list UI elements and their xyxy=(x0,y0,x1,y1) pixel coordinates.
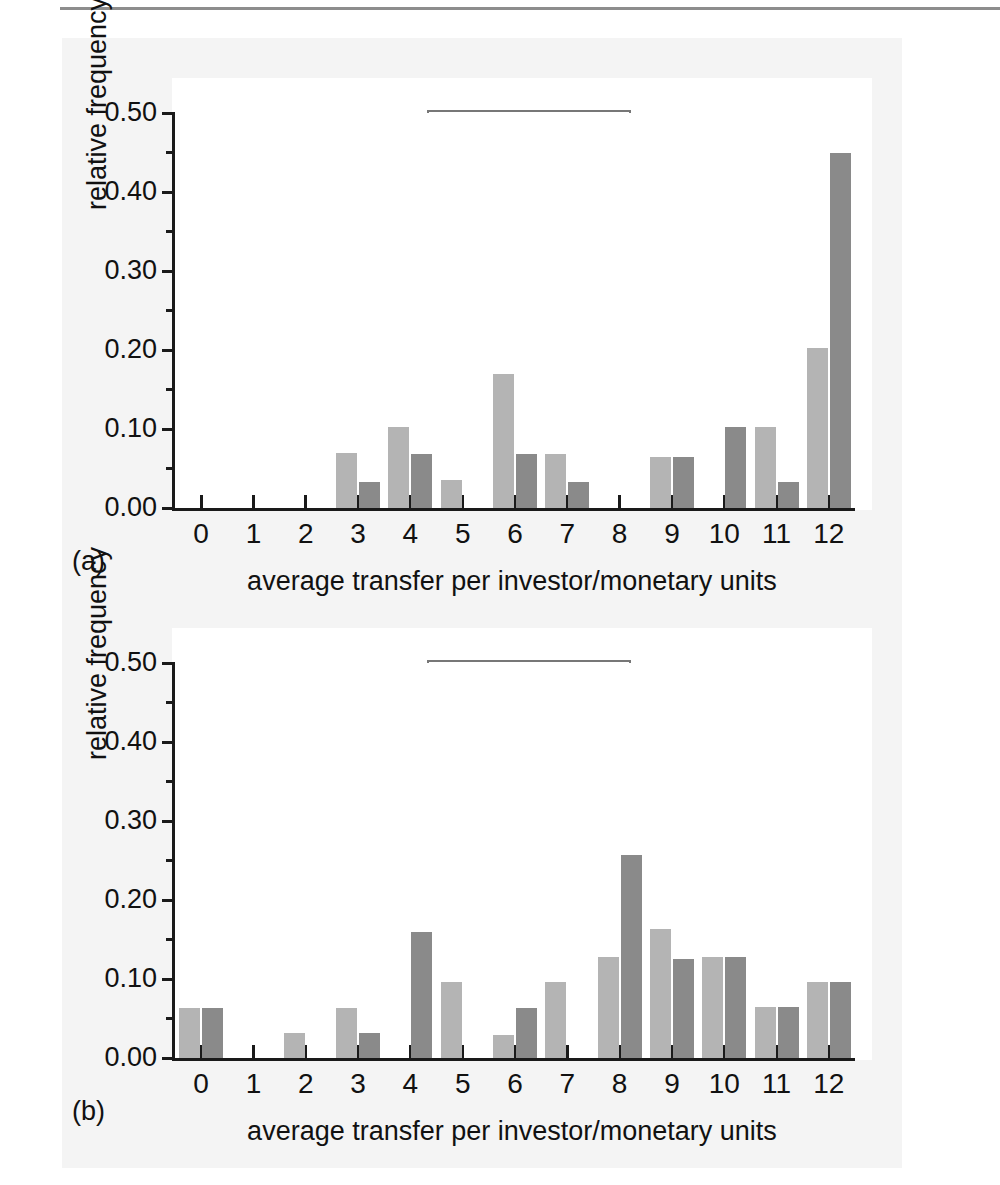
x-axis-tick xyxy=(200,495,203,509)
y-axis-tick-major xyxy=(162,270,175,273)
bar-oxytocin-11 xyxy=(778,1007,799,1058)
bar-placebo-6 xyxy=(493,374,514,508)
bar-placebo-2 xyxy=(284,1033,305,1058)
x-axis-tick-label: 10 xyxy=(709,518,740,550)
x-axis-tick-label: 5 xyxy=(455,1068,471,1100)
bar-placebo-9 xyxy=(650,929,671,1058)
y-axis-tick-label: 0.40 xyxy=(104,176,157,207)
y-axis-tick-major xyxy=(162,112,175,115)
x-axis-tick-label: 10 xyxy=(709,1068,740,1100)
bar-placebo-11 xyxy=(755,1007,776,1058)
y-axis-tick-label: 0.30 xyxy=(104,805,157,836)
bar-placebo-12 xyxy=(807,982,828,1058)
figure-container: trust experiment oxytocin placebo relati… xyxy=(62,38,902,1168)
y-axis-tick-major xyxy=(162,1057,175,1060)
x-axis-tick-label: 6 xyxy=(507,1068,523,1100)
bar-oxytocin-9 xyxy=(673,457,694,508)
bar-oxytocin-6 xyxy=(516,1008,537,1058)
x-axis-tick-label: 12 xyxy=(813,1068,844,1100)
x-axis-tick-label: 4 xyxy=(403,518,419,550)
bar-oxytocin-12 xyxy=(830,153,851,509)
y-axis-tick-minor xyxy=(166,701,175,704)
y-axis-tick-label: 0.00 xyxy=(104,1042,157,1073)
bar-placebo-5 xyxy=(441,480,462,508)
bar-placebo-7 xyxy=(545,454,566,508)
bar-placebo-12 xyxy=(807,348,828,508)
panel-tag-b: (b) xyxy=(72,1096,105,1127)
bar-oxytocin-11 xyxy=(778,482,799,508)
x-axis-tick-label: 3 xyxy=(350,518,366,550)
bar-placebo-8 xyxy=(598,957,619,1058)
bar-placebo-3 xyxy=(336,1008,357,1058)
y-axis-tick-minor xyxy=(166,938,175,941)
bar-oxytocin-4 xyxy=(411,454,432,508)
x-axis-tick-label: 9 xyxy=(664,518,680,550)
y-axis-tick-major xyxy=(162,507,175,510)
x-axis-tick-label: 12 xyxy=(813,518,844,550)
x-axis-tick-label: 2 xyxy=(298,518,314,550)
x-axis-title-b: average transfer per investor/monetary u… xyxy=(172,1116,852,1147)
bar-placebo-10 xyxy=(702,957,723,1058)
y-axis-tick-minor xyxy=(166,151,175,154)
x-axis-tick-label: 11 xyxy=(762,518,791,550)
y-axis-tick-label: 0.30 xyxy=(104,255,157,286)
y-axis-tick-major xyxy=(162,820,175,823)
y-axis-tick-label: 0.00 xyxy=(104,492,157,523)
bar-placebo-9 xyxy=(650,457,671,508)
x-axis-tick-label: 8 xyxy=(612,518,628,550)
x-axis-tick-label: 5 xyxy=(455,518,471,550)
x-axis-tick-label: 4 xyxy=(403,1068,419,1100)
y-axis-tick-major xyxy=(162,428,175,431)
plot-area-a: 0.000.100.200.300.400.500123456789101112 xyxy=(172,113,855,511)
x-axis-tick-label: 1 xyxy=(246,518,262,550)
x-axis-tick xyxy=(618,495,621,509)
y-axis-tick-minor xyxy=(166,388,175,391)
x-axis-tick xyxy=(304,495,307,509)
panel-risk-experiment: risk experiment oxytocin placebo relativ… xyxy=(62,608,902,1128)
x-axis-tick-label: 11 xyxy=(762,1068,791,1100)
y-axis-tick-major xyxy=(162,191,175,194)
panel-trust-experiment: trust experiment oxytocin placebo relati… xyxy=(62,58,902,578)
bar-placebo-4 xyxy=(388,427,409,508)
bar-oxytocin-0 xyxy=(202,1008,223,1058)
x-axis-tick-label: 3 xyxy=(350,1068,366,1100)
bar-placebo-6 xyxy=(493,1035,514,1058)
bar-oxytocin-10 xyxy=(725,957,746,1058)
x-axis-title-a: average transfer per investor/monetary u… xyxy=(172,566,852,597)
x-axis-tick-label: 6 xyxy=(507,518,523,550)
bar-oxytocin-3 xyxy=(359,1033,380,1058)
y-axis-tick-minor xyxy=(166,859,175,862)
y-axis-tick-label: 0.50 xyxy=(104,97,157,128)
y-axis-tick-minor xyxy=(166,467,175,470)
bar-placebo-11 xyxy=(755,427,776,508)
x-axis-tick-label: 1 xyxy=(246,1068,262,1100)
bar-oxytocin-7 xyxy=(568,482,589,508)
bar-oxytocin-6 xyxy=(516,454,537,508)
y-axis-tick-minor xyxy=(166,780,175,783)
bar-placebo-0 xyxy=(179,1008,200,1058)
bar-oxytocin-12 xyxy=(830,982,851,1058)
x-axis-tick-label: 0 xyxy=(193,1068,209,1100)
bar-oxytocin-9 xyxy=(673,959,694,1058)
y-axis-tick-major xyxy=(162,978,175,981)
x-axis-tick-label: 9 xyxy=(664,1068,680,1100)
y-axis-tick-label: 0.10 xyxy=(104,413,157,444)
y-axis-tick-major xyxy=(162,741,175,744)
y-axis-tick-label: 0.10 xyxy=(104,963,157,994)
y-axis-tick-minor xyxy=(166,1017,175,1020)
x-axis-tick-label: 7 xyxy=(560,1068,576,1100)
y-axis-tick-minor xyxy=(166,230,175,233)
x-axis-tick-label: 8 xyxy=(612,1068,628,1100)
y-axis-tick-label: 0.20 xyxy=(104,884,157,915)
y-axis-tick-minor xyxy=(166,309,175,312)
y-axis-tick-label: 0.20 xyxy=(104,334,157,365)
x-axis-tick-label: 0 xyxy=(193,518,209,550)
bar-placebo-3 xyxy=(336,453,357,508)
bar-oxytocin-8 xyxy=(621,855,642,1058)
x-axis-tick-label: 2 xyxy=(298,1068,314,1100)
y-axis-tick-major xyxy=(162,662,175,665)
y-axis-tick-major xyxy=(162,349,175,352)
bar-oxytocin-3 xyxy=(359,482,380,508)
header-rule xyxy=(60,7,1000,10)
x-axis-tick xyxy=(252,495,255,509)
